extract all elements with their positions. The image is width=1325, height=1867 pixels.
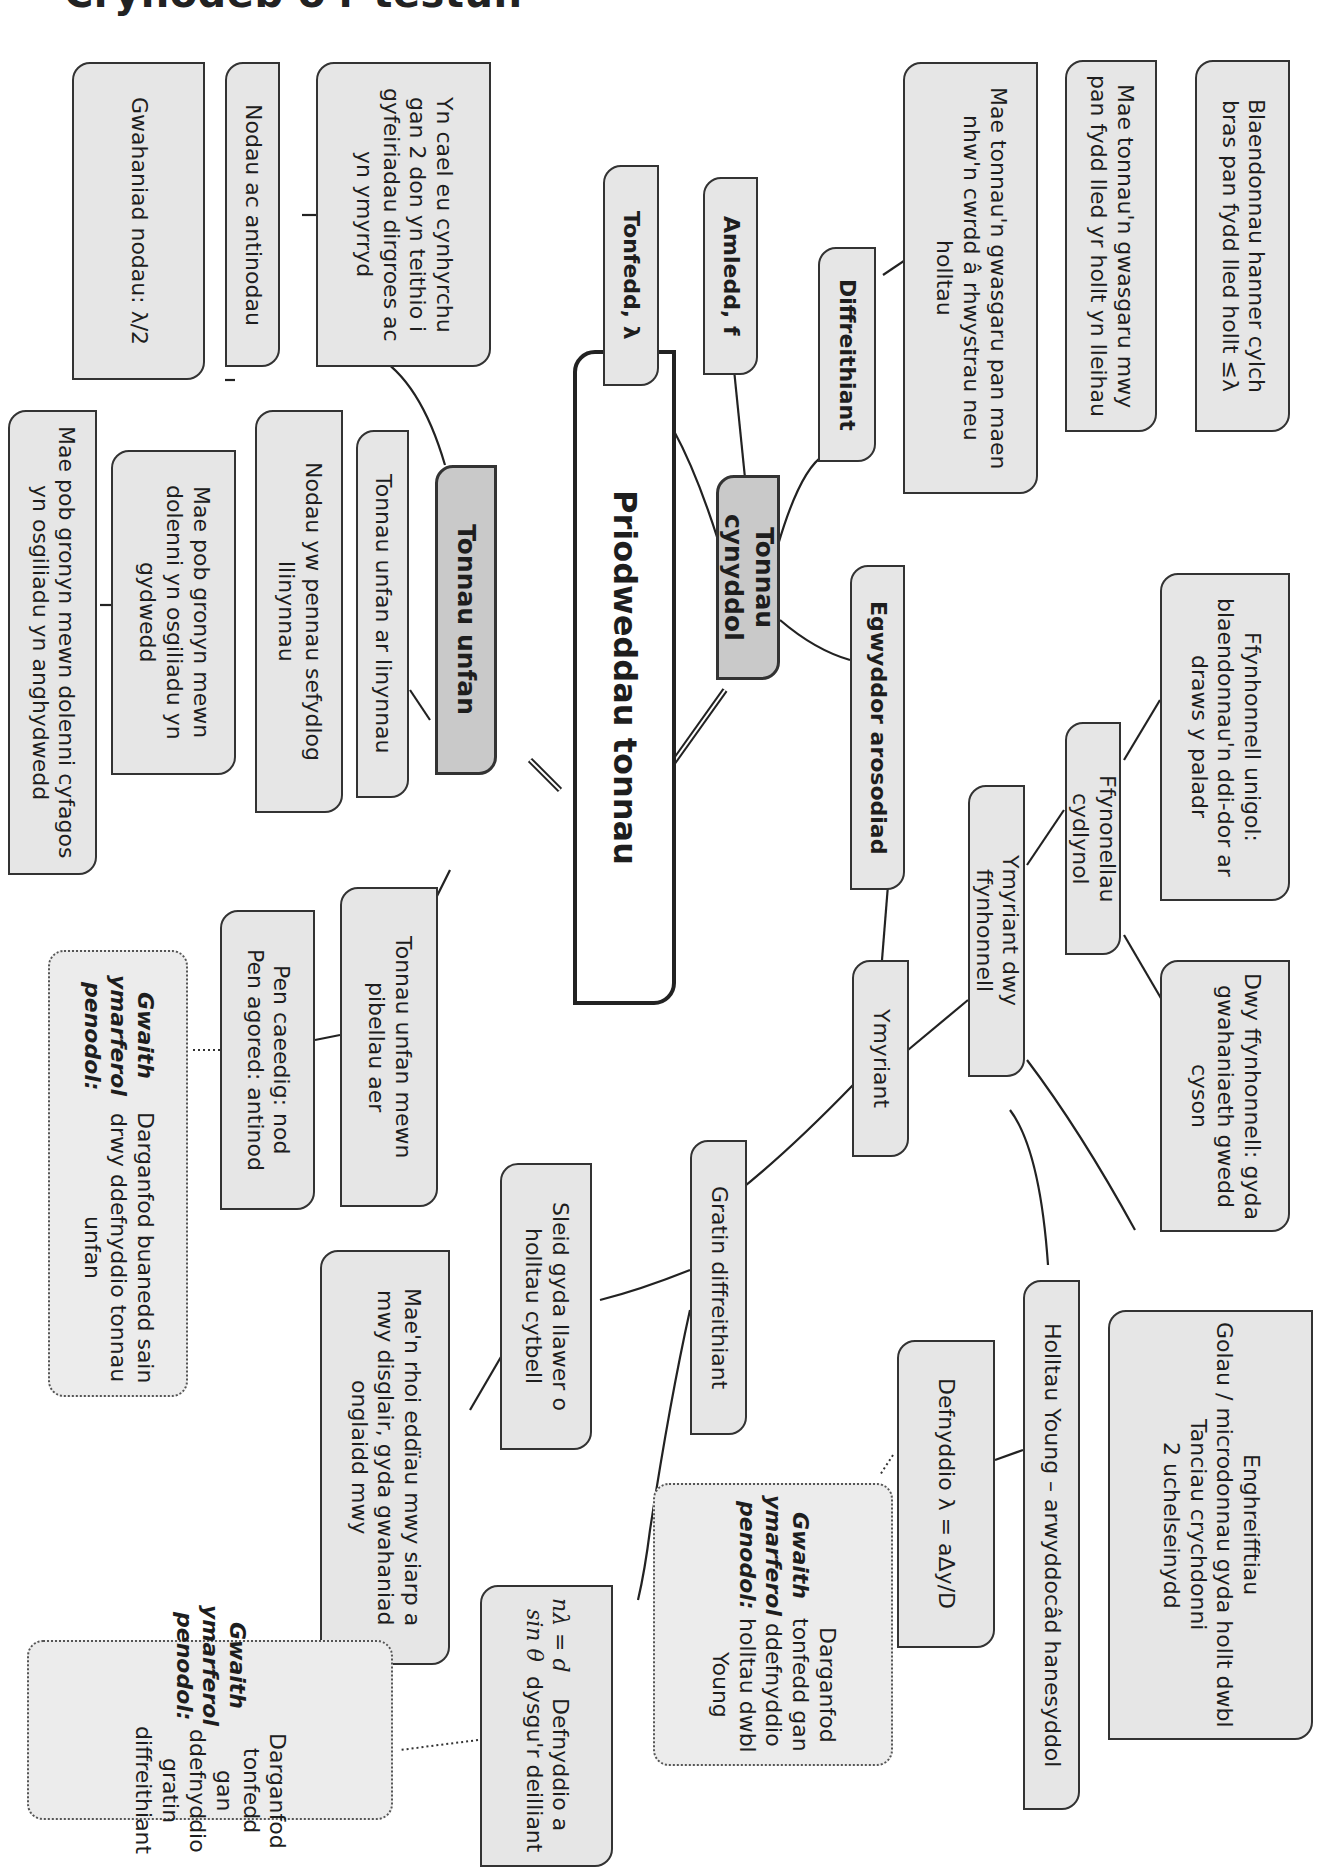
node-tonfedd: Tonfedd, λ (603, 165, 659, 386)
node-eddiau: Mae'n rhoi eddïau mwy siarp a mwy disgla… (320, 1250, 450, 1665)
node-ymyriant: Ymyriant (852, 960, 909, 1157)
node-gratin-equation: nλ = d sin θ Defnyddio a dysgu'r deillia… (480, 1585, 613, 1867)
node-nodau-pennau: Nodau yw pennau sefydlog llinynnau (255, 410, 343, 813)
root-node: Priodweddau tonnau (573, 350, 676, 1005)
node-cynhyrchu: Yn cael eu cynhyrchu gan 2 don yn teithi… (316, 62, 491, 367)
node-defnyddio-young: Defnyddio λ = aΔy/D (897, 1340, 995, 1648)
node-enghreifftiau: Enghreifftiau Golau / microdonnau gyda h… (1108, 1310, 1313, 1740)
practical-unfan: Gwaith ymarferol penodol: Darganfod buan… (48, 950, 188, 1397)
node-gronyn-gydwedd: Mae pob gronyn mewn dolenni yn osgiliadu… (111, 450, 236, 775)
node-amledd: Amledd, f (703, 177, 758, 375)
node-ffynonellau-cydlynol: Ffynonellau cydlynol (1065, 722, 1121, 955)
node-sleid: Sleid gyda llawer o holltau cytbell (500, 1163, 592, 1450)
node-gwahaniad-nodau: Gwahaniad nodau: λ/2 (72, 62, 205, 380)
node-diffreithiant: Diffreithiant (818, 247, 876, 462)
node-tonnau-unfan: Tonnau unfan (435, 465, 497, 775)
node-gronyn-anghydwedd: Mae pob gronyn mewn dolenni cyfagos yn o… (8, 410, 97, 875)
node-ar-linynnau: Tonnau unfan ar linynnau (356, 430, 409, 798)
practical-young: Gwaith ymarferol penodol: Darganfod tonf… (653, 1483, 893, 1766)
node-holltau-young: Holltau Young – arwyddocâd hanesyddol (1023, 1280, 1080, 1810)
page-title: Crynodeb o'r testun (64, 0, 522, 16)
node-gwasgaru-rhwystrau: Mae tonnau'n gwasgaru pan maen nhw'n cwr… (903, 62, 1038, 494)
node-nodau-antinodau: Nodau ac antinodau (225, 62, 280, 367)
practical-gratin: Gwaith ymarferol penodol: Darganfod tonf… (27, 1640, 393, 1820)
node-gratin-diffreithiant: Gratin diffreithiant (690, 1140, 747, 1435)
node-tonnau-cynyddol: Tonnau cynyddol (716, 475, 780, 680)
node-blaendonnau: Blaendonnau hanner cylch bras pan fydd l… (1195, 60, 1290, 432)
node-pennau: Pen caeedig: nod Pen agored: antinod (220, 910, 315, 1210)
node-ymyriant-dwy-ffynhonnell: Ymyriant dwy ffynhonnell (968, 785, 1025, 1077)
node-pibellau-aer: Tonnau unfan mewn pibellau aer (340, 887, 438, 1207)
node-egwyddor-arosodiad: Egwyddor arosodiad (850, 565, 905, 890)
node-ffynhonnell-unigol: Ffynhonnell unigol: blaendonnau'n ddi-do… (1160, 573, 1290, 901)
node-gwasgaru-mwy: Mae tonnau'n gwasgaru mwy pan fydd lled … (1065, 60, 1157, 432)
node-dwy-ffynhonnell: Dwy ffynhonnell: gyda gwahaniaeth gwedd … (1160, 960, 1290, 1232)
